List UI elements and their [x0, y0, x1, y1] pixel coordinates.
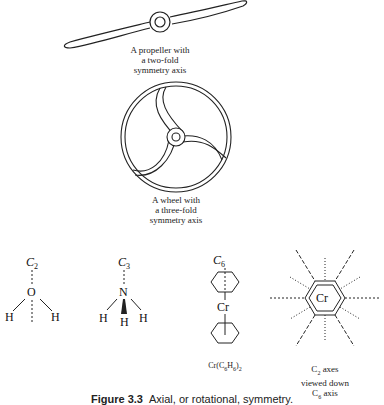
figure-caption: Figure 3.3Axial, or rotational, symmetry… — [0, 393, 384, 405]
figure-caption-text: Axial, or rotational, symmetry. — [149, 393, 293, 405]
figure-number: Figure 3.3 — [91, 393, 143, 405]
top-view-metal: Cr — [316, 291, 328, 306]
top-view-caption-line2: viewed down — [290, 378, 360, 388]
top-view-caption-line1: C2 axes — [290, 364, 360, 378]
